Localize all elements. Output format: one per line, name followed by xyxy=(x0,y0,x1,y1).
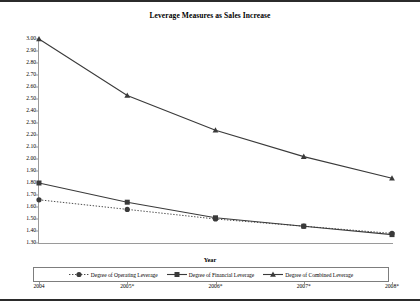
chart-legend: Degree of Operating LeverageDegree of Fi… xyxy=(33,267,389,282)
chart-container: Leverage Measures as Sales Increase 3.00… xyxy=(0,0,420,301)
data-point-square xyxy=(213,215,218,220)
top-divider xyxy=(0,0,420,2)
y-tick-label: 2.50 xyxy=(26,96,36,102)
data-point-square xyxy=(390,232,395,237)
x-axis-line xyxy=(38,243,393,244)
y-tick-label: 1.70 xyxy=(26,192,36,198)
data-point-square xyxy=(174,272,179,277)
y-tick-label: 1.90 xyxy=(26,168,36,174)
data-point-circle xyxy=(76,272,81,277)
y-tick-label: 1.50 xyxy=(26,216,36,222)
legend-swatch xyxy=(69,271,89,278)
legend-label: Degree of Financial Leverage xyxy=(189,272,255,278)
plot-area: 3.002.902.802.702.602.502.402.302.202.10… xyxy=(39,39,392,243)
y-tick-label: 1.30 xyxy=(26,240,36,246)
data-point-square xyxy=(125,200,130,205)
y-tick-label: 2.70 xyxy=(26,72,36,78)
y-tick-label: 1.40 xyxy=(26,228,36,234)
x-tick-mark xyxy=(304,282,305,285)
y-tick-label: 2.20 xyxy=(26,132,36,138)
legend-swatch xyxy=(167,271,187,278)
y-tick-label: 2.80 xyxy=(26,60,36,66)
chart-title: Leverage Measures as Sales Increase xyxy=(0,11,420,20)
data-point-triangle xyxy=(124,92,130,97)
data-point-circle xyxy=(36,197,41,202)
data-point-square xyxy=(301,224,306,229)
legend-label: Degree of Operating Leverage xyxy=(91,272,158,278)
y-tick-label: 2.10 xyxy=(26,144,36,150)
series-line xyxy=(39,183,392,235)
legend-entry[interactable]: Degree of Operating Leverage xyxy=(69,271,158,278)
legend-swatch xyxy=(263,271,283,278)
y-tick-label: 2.60 xyxy=(26,84,36,90)
legend-entry[interactable]: Degree of Financial Leverage xyxy=(167,271,255,278)
y-tick-label: 1.60 xyxy=(26,204,36,210)
series-group xyxy=(36,36,395,181)
legend-label: Degree of Combined Leverage xyxy=(285,272,353,278)
legend-entry[interactable]: Degree of Combined Leverage xyxy=(263,271,353,278)
x-tick-mark xyxy=(39,282,40,285)
data-point-circle xyxy=(125,207,130,212)
x-tick-mark xyxy=(216,282,217,285)
x-tick-mark xyxy=(392,282,393,285)
y-tick-label: 2.90 xyxy=(26,48,36,54)
x-tick-mark xyxy=(127,282,128,285)
series-layer xyxy=(39,39,392,243)
y-tick-label: 2.40 xyxy=(26,108,36,114)
series-line xyxy=(39,39,392,178)
y-tick-label: 2.00 xyxy=(26,156,36,162)
x-axis-label: Year xyxy=(0,256,420,263)
y-tick-label: 3.00 xyxy=(26,36,36,42)
y-tick-label: 2.30 xyxy=(26,120,36,126)
y-tick-label: 1.80 xyxy=(26,180,36,186)
series-group xyxy=(37,181,395,238)
data-point-square xyxy=(37,181,42,186)
